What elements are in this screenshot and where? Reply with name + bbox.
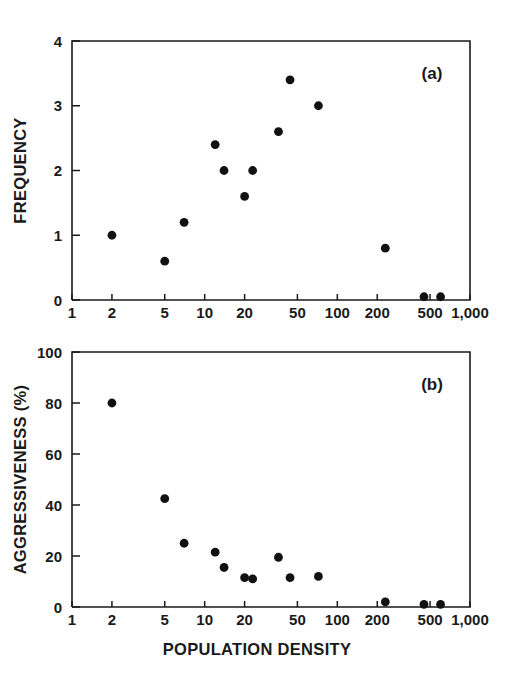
y-tick-label-a-0: 0 xyxy=(54,292,62,309)
data-point xyxy=(211,548,220,557)
scatter-figure: 1251020501002005001,00001234FREQUENCY(a)… xyxy=(0,0,509,681)
y-tick-label-b-2: 40 xyxy=(45,497,62,514)
x-tick-label-a-8: 500 xyxy=(418,304,443,321)
panel-label-a: (a) xyxy=(422,64,443,83)
x-tick-label-b-8: 500 xyxy=(418,611,443,628)
x-tick-label-a-1: 2 xyxy=(108,304,116,321)
x-tick-label-b-9: 1,000 xyxy=(451,611,489,628)
y-tick-label-a-1: 1 xyxy=(54,227,62,244)
x-tick-label-b-7: 200 xyxy=(365,611,390,628)
data-point xyxy=(211,140,220,149)
x-tick-label-a-9: 1,000 xyxy=(451,304,489,321)
data-point xyxy=(180,539,189,548)
data-point xyxy=(286,573,295,582)
y-tick-label-b-3: 60 xyxy=(45,446,62,463)
x-tick-label-b-6: 100 xyxy=(325,611,350,628)
data-point xyxy=(160,257,169,266)
y-tick-label-a-4: 4 xyxy=(54,33,63,50)
data-point xyxy=(420,292,429,301)
x-tick-label-a-4: 20 xyxy=(236,304,253,321)
panel-label-b: (b) xyxy=(421,375,443,394)
x-tick-label-b-3: 10 xyxy=(196,611,213,628)
x-tick-label-a-7: 200 xyxy=(365,304,390,321)
y-tick-label-a-2: 2 xyxy=(54,162,62,179)
data-point xyxy=(286,75,295,84)
x-tick-label-a-0: 1 xyxy=(68,304,76,321)
data-point xyxy=(108,231,117,240)
data-point xyxy=(248,575,257,584)
data-point xyxy=(274,127,283,136)
data-point xyxy=(160,494,169,503)
data-point xyxy=(314,101,323,110)
y-tick-label-a-3: 3 xyxy=(54,97,62,114)
data-point xyxy=(180,218,189,227)
figure-canvas: 1251020501002005001,00001234FREQUENCY(a)… xyxy=(0,0,509,681)
y-axis-title-b: AGGRESSIVENESS (%) xyxy=(11,385,29,575)
data-point xyxy=(436,600,445,609)
data-point xyxy=(240,192,249,201)
data-point xyxy=(108,399,117,408)
x-tick-label-a-2: 5 xyxy=(161,304,169,321)
data-point xyxy=(436,292,445,301)
data-point xyxy=(240,573,249,582)
x-tick-label-b-5: 50 xyxy=(289,611,306,628)
data-point xyxy=(220,563,229,572)
data-point xyxy=(274,553,283,562)
x-axis-title-b: POPULATION DENSITY xyxy=(163,640,351,658)
data-point xyxy=(314,572,323,581)
y-tick-label-b-5: 100 xyxy=(37,344,62,361)
x-tick-label-b-4: 20 xyxy=(236,611,253,628)
data-point xyxy=(381,244,390,253)
y-tick-label-b-4: 80 xyxy=(45,395,62,412)
x-tick-label-a-6: 100 xyxy=(325,304,350,321)
x-tick-label-b-0: 1 xyxy=(68,611,76,628)
x-tick-label-a-5: 50 xyxy=(289,304,306,321)
x-tick-label-a-3: 10 xyxy=(196,304,213,321)
y-tick-label-b-0: 0 xyxy=(54,599,62,616)
x-tick-label-b-2: 5 xyxy=(161,611,169,628)
x-tick-label-b-1: 2 xyxy=(108,611,116,628)
data-point xyxy=(220,166,229,175)
y-tick-label-b-1: 20 xyxy=(45,548,62,565)
data-point xyxy=(381,598,390,607)
data-point xyxy=(420,600,429,609)
y-axis-title-a: FREQUENCY xyxy=(11,117,29,223)
data-point xyxy=(248,166,257,175)
